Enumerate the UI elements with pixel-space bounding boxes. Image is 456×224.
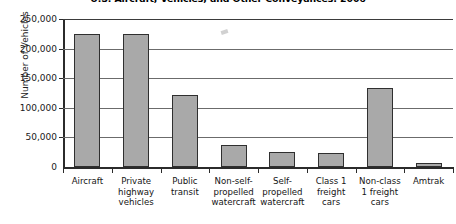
x-tick-mark bbox=[356, 167, 357, 173]
y-tick-label: 50,000 bbox=[0, 132, 57, 142]
bar bbox=[416, 163, 442, 167]
bar-chart-figure: U.S. Aircraft, Vehicles, and Other Conve… bbox=[0, 0, 456, 224]
x-tick-mark bbox=[209, 167, 210, 173]
bar bbox=[318, 153, 344, 167]
y-tick-label: 200,000 bbox=[0, 44, 57, 54]
bar bbox=[269, 152, 295, 167]
gridline bbox=[63, 78, 453, 79]
x-tick-mark bbox=[112, 167, 113, 173]
gridline bbox=[63, 49, 453, 50]
y-tick-label: 250,000 bbox=[0, 14, 57, 24]
plot-area bbox=[63, 19, 453, 167]
x-tick-mark bbox=[161, 167, 162, 173]
x-tick-mark bbox=[258, 167, 259, 173]
gridline bbox=[63, 108, 453, 109]
x-axis-label: Amtrak bbox=[400, 176, 456, 187]
plot-top-border bbox=[63, 19, 453, 20]
bar bbox=[172, 95, 198, 167]
x-tick-mark bbox=[307, 167, 308, 173]
x-tick-mark bbox=[404, 167, 405, 173]
bar bbox=[74, 34, 100, 167]
x-tick-mark bbox=[63, 167, 64, 173]
chart-title: U.S. Aircraft, Vehicles, and Other Conve… bbox=[0, 0, 456, 4]
bar bbox=[367, 88, 393, 167]
bar bbox=[123, 34, 149, 167]
gridline bbox=[63, 137, 453, 138]
y-tick-label: 0 bbox=[0, 162, 57, 172]
x-tick-mark bbox=[453, 167, 454, 173]
bar bbox=[221, 145, 247, 167]
y-tick-label: 100,000 bbox=[0, 103, 57, 113]
y-tick-label: 150,000 bbox=[0, 73, 57, 83]
